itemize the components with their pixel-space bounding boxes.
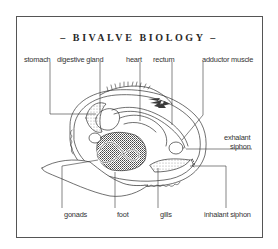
posterior-adductor [169,142,183,154]
gills [150,159,190,172]
gland-lobe [89,133,101,143]
bivalve-illustration [0,0,278,249]
adductor-fan [148,98,170,108]
